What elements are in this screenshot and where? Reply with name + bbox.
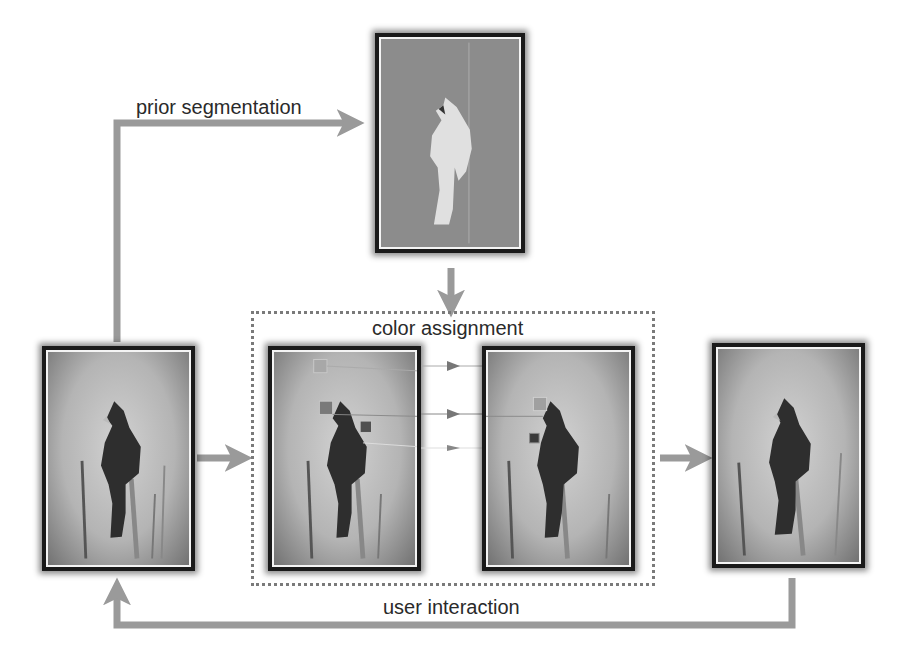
- colorized-cardinal-photo: [716, 347, 861, 564]
- cardinal-photo: [46, 350, 191, 567]
- color-assignment-label: color assignment: [372, 317, 523, 340]
- color-source-image: [268, 346, 421, 571]
- prior-segmentation-label: prior segmentation: [136, 96, 302, 119]
- cardinal-photo-with-samples: [272, 350, 417, 567]
- segmentation-mask-image: [375, 33, 525, 253]
- assigned-color-2: [530, 433, 539, 442]
- color-sample-3: [360, 421, 371, 432]
- bird-silhouette-mask: [379, 37, 521, 249]
- color-sample-1: [314, 359, 327, 372]
- assigned-color-1: [533, 397, 546, 410]
- color-target-image: [482, 346, 635, 571]
- user-interaction-label: user interaction: [383, 596, 520, 619]
- cardinal-photo-with-assigned-colors: [486, 350, 631, 567]
- output-bird-image: [712, 343, 865, 568]
- input-bird-image: [42, 346, 195, 571]
- prior-segmentation-arrow: [117, 123, 352, 342]
- color-sample-2: [319, 401, 332, 414]
- workflow-diagram: prior segmentation user interaction colo…: [0, 0, 905, 659]
